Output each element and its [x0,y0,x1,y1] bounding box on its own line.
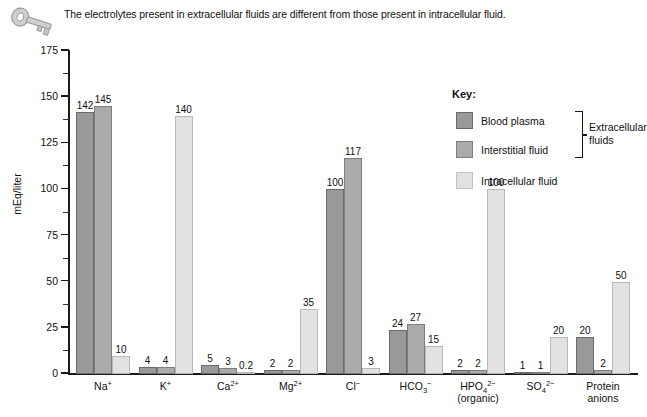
bar[interactable]: 2 [264,370,282,374]
y-axis-minor-tick [63,73,69,74]
bar[interactable]: 2 [282,370,300,374]
y-axis-minor-tick [63,304,69,305]
y-axis-tick-label: 100 [18,182,58,194]
bar[interactable]: 10 [112,356,130,374]
y-axis-tick-label: 125 [18,136,58,148]
bar-value-label: 0.2 [239,360,253,371]
bar-slot: 50 [612,282,630,374]
bar-slot: 142 [76,112,94,374]
y-axis-major-tick [61,188,69,190]
bar-slot: 5 [201,365,219,374]
y-axis-major-tick [61,372,69,374]
bar-slot: 3 [362,368,380,374]
bar-value-label: 140 [175,104,192,115]
y-axis-tick-label: 0 [18,367,58,379]
legend-swatch-interstitial-fluid [456,141,473,158]
bar-slot: 2 [451,370,469,374]
bar-slot: 27 [407,324,425,374]
bar-slot: 2 [469,370,487,374]
bar[interactable]: 4 [157,367,175,374]
bar[interactable]: 1 [532,372,550,374]
bar[interactable]: 142 [76,112,94,374]
bar-slot: 10 [112,356,130,374]
key-icon [6,6,58,40]
bar-value-label: 4 [163,355,169,366]
bar-value-label: 3 [368,356,374,367]
bar[interactable]: 117 [344,158,362,374]
bar[interactable]: 2 [594,370,612,374]
bar-value-label: 1 [538,360,544,371]
bar[interactable]: 2 [469,370,487,374]
bar[interactable]: 2 [451,370,469,374]
bar-value-label: 2 [600,358,606,369]
bar[interactable]: 0.2 [237,372,255,374]
bar-value-label: 142 [77,100,94,111]
y-axis-minor-tick [63,165,69,166]
bar-value-label: 50 [615,270,626,281]
bar[interactable]: 1 [514,372,532,374]
bar-group-bars: 14214510 [76,106,130,374]
legend-label-blood-plasma: Blood plasma [481,115,545,127]
bar-slot: 24 [389,330,407,374]
bar-value-label: 35 [303,297,314,308]
bar-slot: 35 [300,309,318,374]
bar-slot: 4 [157,367,175,374]
y-axis-major-tick [61,326,69,328]
bar-value-label: 20 [553,325,564,336]
bar[interactable]: 5 [201,365,219,374]
y-axis-minor-tick [63,212,69,213]
bar[interactable]: 100 [326,189,344,374]
y-axis-major-tick [61,280,69,282]
bar-slot: 1 [532,372,550,374]
bar-slot: 3 [219,368,237,374]
bar-slot: 2 [282,370,300,374]
bar-value-label: 145 [95,94,112,105]
y-axis-tick-label: 175 [18,44,58,56]
bar-value-label: 2 [270,358,276,369]
chart-plot-area: mEq/liter 0255075100125150175 1421451044… [0,40,641,417]
caption-bar: The electrolytes present in extracellula… [0,0,641,40]
legend-swatch-blood-plasma [456,112,473,129]
bar[interactable]: 4 [139,367,157,374]
bar-slot: 0.2 [237,372,255,374]
legend-label-intracellular-fluid: Intracellular fluid [481,175,557,187]
bar-slot: 20 [576,337,594,374]
bar[interactable]: 3 [362,368,380,374]
bar[interactable]: 50 [612,282,630,374]
bar-group-bars: 242715 [389,324,443,374]
bar-value-label: 15 [428,334,439,345]
bar-slot: 145 [94,106,112,374]
y-axis-tick-label: 50 [18,275,58,287]
bar[interactable]: 20 [550,337,568,374]
bar-value-label: 4 [145,355,151,366]
bar-value-label: 1 [520,360,526,371]
bar-slot: 2 [594,370,612,374]
bar-value-label: 27 [410,312,421,323]
bar-slot: 4 [139,367,157,374]
bar[interactable]: 100 [487,189,505,374]
bar-value-label: 100 [327,177,344,188]
bar-value-label: 5 [207,353,213,364]
bar[interactable]: 24 [389,330,407,374]
y-axis-minor-tick [63,119,69,120]
bar-value-label: 24 [392,318,403,329]
bar-group-bars: 1120 [514,337,568,374]
bar[interactable]: 20 [576,337,594,374]
bar-slot: 20 [550,337,568,374]
bar[interactable]: 35 [300,309,318,374]
bar[interactable]: 15 [425,346,443,374]
bar-group-bars: 22100 [451,189,505,374]
bar-slot: 2 [264,370,282,374]
bar[interactable]: 145 [94,106,112,374]
bar-slot: 100 [487,189,505,374]
y-axis-tick-label: 25 [18,321,58,333]
bar[interactable]: 3 [219,368,237,374]
bar-slot: 15 [425,346,443,374]
y-axis-major-tick [61,95,69,97]
y-axis-major-tick [61,142,69,144]
bar[interactable]: 140 [175,116,193,374]
caption-text: The electrolytes present in extracellula… [64,8,634,21]
bar-value-label: 20 [579,325,590,336]
bar[interactable]: 27 [407,324,425,374]
bar-value-label: 2 [288,358,294,369]
